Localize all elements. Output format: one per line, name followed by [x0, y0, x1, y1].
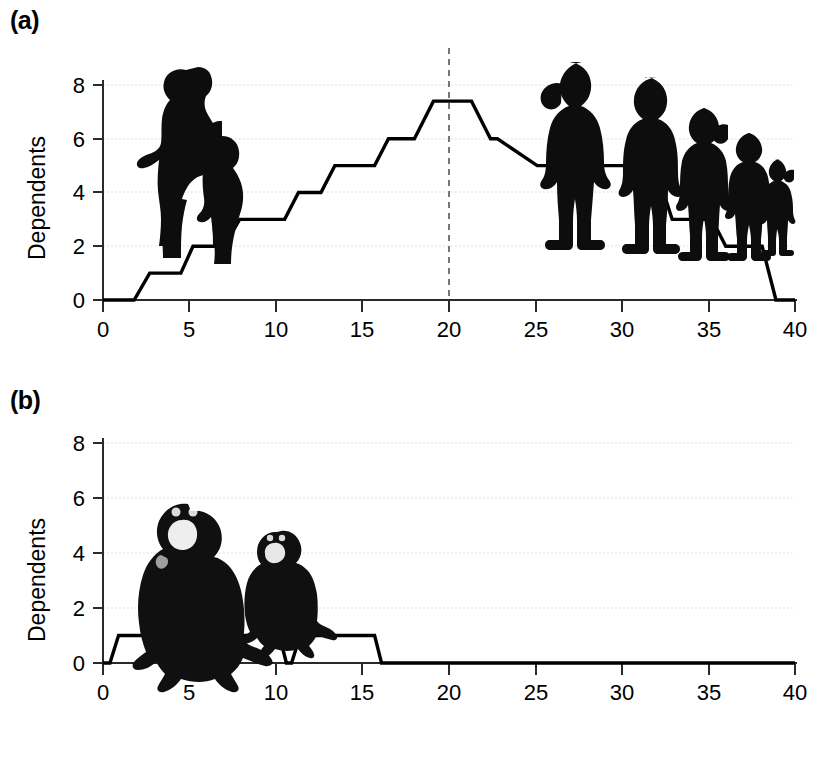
panel-a: (a) Dependents: [0, 0, 824, 380]
panel-b-plot: 8 6 4 2 0 0 5 10 15 20 25 30 35 40: [0, 380, 824, 760]
x-tick-label: 5: [183, 680, 195, 705]
y-tick-label: 2: [73, 596, 85, 621]
x-tick-label: 15: [350, 680, 374, 705]
silhouette-juvenile-chimpanzee: [240, 531, 337, 658]
y-tick-label: 0: [73, 288, 85, 313]
y-tick-label: 4: [73, 541, 85, 566]
figure-dependents-human-vs-chimpanzee: (a) Dependents: [0, 0, 824, 760]
y-tick-label: 6: [73, 486, 85, 511]
panel-a-plot: 8 6 4 2 0 0 5 10 15 20 25 30 35 40: [0, 0, 824, 380]
panel-b-x-tick-labels: 0 5 10 15 20 25 30 35 40: [97, 680, 807, 705]
silhouette-child-boy: [619, 77, 683, 254]
x-tick-label: 40: [783, 680, 807, 705]
x-tick-label: 5: [183, 317, 195, 342]
x-tick-label: 20: [437, 680, 461, 705]
x-tick-label: 35: [697, 317, 721, 342]
silhouette-pregnant-woman-with-toddler: [137, 67, 243, 264]
x-tick-label: 0: [97, 680, 109, 705]
panel-a-x-tick-labels: 0 5 10 15 20 25 30 35 40: [97, 317, 807, 342]
panel-a-y-tick-labels: 8 6 4 2 0: [73, 73, 85, 313]
x-tick-label: 20: [437, 317, 461, 342]
x-tick-label: 10: [264, 317, 288, 342]
x-tick-label: 25: [524, 317, 548, 342]
x-tick-label: 30: [610, 680, 634, 705]
panel-b: (b) Dependents: [0, 380, 824, 760]
y-tick-label: 2: [73, 234, 85, 259]
x-tick-label: 30: [610, 317, 634, 342]
y-tick-label: 8: [73, 73, 85, 98]
y-tick-label: 4: [73, 180, 85, 205]
y-tick-label: 6: [73, 127, 85, 152]
silhouette-child-girl: [676, 108, 732, 261]
x-tick-label: 35: [697, 680, 721, 705]
x-tick-label: 0: [97, 317, 109, 342]
silhouette-child-large: [540, 62, 610, 250]
x-tick-label: 10: [264, 680, 288, 705]
x-tick-label: 40: [783, 317, 807, 342]
panel-b-y-tick-labels: 8 6 4 2 0: [73, 431, 85, 676]
x-tick-label: 25: [524, 680, 548, 705]
y-tick-label: 8: [73, 431, 85, 456]
x-tick-label: 15: [350, 317, 374, 342]
y-tick-label: 0: [73, 651, 85, 676]
